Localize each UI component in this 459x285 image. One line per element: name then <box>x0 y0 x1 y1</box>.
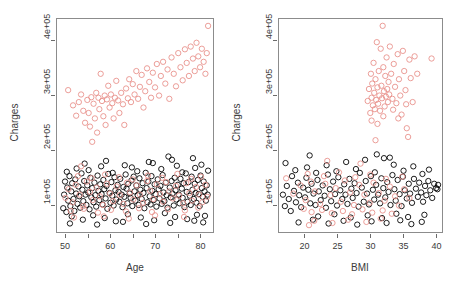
plot-frame-bmi <box>278 18 443 233</box>
x-tick-label: 20 <box>299 241 309 251</box>
x-tick-label: 80 <box>195 241 205 251</box>
x-tick <box>304 234 305 238</box>
y-axis-title-age: Charges <box>9 93 20 153</box>
y-tick <box>51 150 55 151</box>
x-tick <box>337 234 338 238</box>
y-tick <box>51 95 55 96</box>
x-tick-label: 40 <box>431 241 441 251</box>
series-lower-band-black <box>280 152 441 228</box>
x-axis-title-age: Age <box>126 262 144 273</box>
y-tick <box>273 40 277 41</box>
series-lower-band-red <box>284 158 413 228</box>
x-tick-label: 70 <box>150 241 160 251</box>
x-tick <box>436 234 437 238</box>
y-tick <box>51 205 55 206</box>
x-tick <box>88 234 89 238</box>
x-tick-label: 50 <box>60 241 70 251</box>
data-points-age <box>57 19 213 232</box>
x-tick <box>370 234 371 238</box>
x-tick-label: 60 <box>105 241 115 251</box>
x-tick <box>403 234 404 238</box>
x-tick <box>200 234 201 238</box>
plot-frame-age <box>56 18 214 233</box>
x-axis-title-bmi: BMI <box>351 262 369 273</box>
x-tick-label: 25 <box>332 241 342 251</box>
x-tick <box>178 234 179 238</box>
x-tick <box>133 234 134 238</box>
x-tick-label: 30 <box>365 241 375 251</box>
series-upper-cluster-red <box>365 23 434 143</box>
x-tick <box>65 234 66 238</box>
y-tick <box>273 205 277 206</box>
y-tick <box>273 150 277 151</box>
y-axis-title-bmi: Charges <box>231 93 242 153</box>
data-points-bmi <box>279 19 442 232</box>
series-upper-cluster-red <box>65 23 210 144</box>
x-tick <box>110 234 111 238</box>
x-tick-label: 35 <box>398 241 408 251</box>
figure-canvas: 1e+052e+053e+054e+05 50607080 Charges Ag… <box>0 0 459 285</box>
y-tick <box>273 95 277 96</box>
y-tick <box>51 40 55 41</box>
x-tick <box>155 234 156 238</box>
